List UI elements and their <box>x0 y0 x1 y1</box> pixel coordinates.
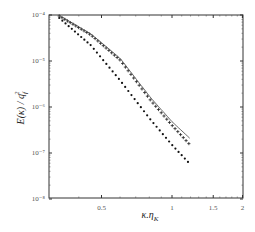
y-axis-ticks: 10⁻⁴10⁻⁵10⁻⁶10⁻⁷10⁻⁸ <box>32 11 243 203</box>
plot-frame <box>49 15 243 198</box>
y-tick-label: 10⁻⁵ <box>32 57 46 65</box>
x-tick-label: 2 <box>241 204 245 212</box>
spectrum-chart: 10⁻⁴10⁻⁵10⁻⁶10⁻⁷10⁻⁸ 0.511.52 κ.ηK E(κ) … <box>0 0 255 232</box>
x-tick-label: 1.5 <box>209 204 218 212</box>
data-series <box>58 14 191 163</box>
x-tick-label: 0.5 <box>97 204 106 212</box>
y-tick-label: 10⁻⁴ <box>32 11 46 19</box>
y-tick-label: 10⁻⁸ <box>32 195 46 203</box>
y-axis-label: E(κ) / qf2 <box>13 91 29 125</box>
x-axis-label: κ.ηK <box>142 209 159 223</box>
y-tick-label: 10⁻⁶ <box>32 103 46 111</box>
series-dots <box>58 17 189 163</box>
x-tick-label: 1 <box>170 204 174 212</box>
y-tick-label: 10⁻⁷ <box>32 149 46 157</box>
